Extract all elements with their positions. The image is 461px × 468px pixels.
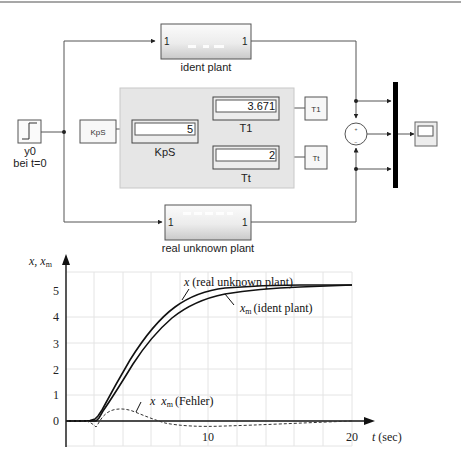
stage: y0 bei t=0 1 1 ident plant 1 1 real unkn… [0, 0, 461, 468]
mux-block[interactable] [393, 82, 398, 188]
sum-minus-sign: − [355, 139, 358, 145]
kps-display-block[interactable]: 5 [132, 120, 198, 143]
kps-display-value: 5 [187, 123, 193, 135]
kps-display-label: KpS [155, 146, 176, 158]
y-axis-label: x,xm [28, 254, 53, 269]
scope-screen-icon [418, 126, 433, 136]
ident-plant-block[interactable]: 1 1 [161, 24, 251, 59]
step-label-1: y0 [24, 145, 36, 157]
curve-error [66, 409, 352, 427]
branch-dot [354, 167, 358, 171]
kps-constant-block[interactable]: KpS [80, 120, 116, 143]
x-tick-label: 20 [346, 430, 358, 444]
tt-display-block[interactable]: 2 [213, 146, 279, 169]
t1-display-label: T1 [240, 122, 253, 134]
y-tick-label: 1 [53, 388, 59, 402]
t1-display-value: 3.671 [247, 100, 275, 112]
real-plant-block[interactable]: 1 1 [165, 205, 251, 240]
y-tick-label: 0 [53, 414, 59, 428]
y-tick-label: 3 [53, 337, 59, 351]
tt-display-value: 2 [269, 149, 275, 161]
ident-out-port: 1 [242, 36, 248, 47]
y-tick-label: 2 [53, 363, 59, 377]
sum-block[interactable]: + − [345, 123, 367, 145]
tt-constant-block[interactable]: Tt [305, 146, 327, 169]
t1-constant-text: T1 [311, 105, 321, 114]
y-tick-label: 5 [53, 284, 59, 298]
plot: 5 4 3 2 1 0 10 20 x,xm t(sec) x(real unk… [28, 254, 402, 447]
sum-plus-sign: + [355, 126, 358, 132]
annotation-ident-plant: xm(ident plant) [239, 301, 313, 316]
kps-constant-text: KpS [90, 128, 105, 137]
x-axis-label: t(sec) [372, 430, 402, 444]
t1-display-block[interactable]: 3.671 [213, 97, 279, 120]
ident-plant-label: ident plant [181, 61, 232, 73]
step-block[interactable] [18, 120, 41, 143]
real-out-port: 1 [242, 217, 248, 228]
scope-block[interactable] [415, 122, 437, 146]
leader-ident [225, 294, 234, 305]
annotation-real-plant: x(real unknown plant) [183, 275, 293, 289]
y-tick-label: 4 [53, 310, 59, 324]
tt-constant-text: Tt [312, 154, 320, 163]
tt-display-label: Tt [241, 172, 251, 184]
x-axis-arrow-icon [364, 417, 375, 425]
real-in-port: 1 [168, 217, 174, 228]
step-label-2: bei t=0 [13, 157, 46, 169]
annotation-error: xxm(Fehler) [149, 394, 214, 409]
t1-constant-block[interactable]: T1 [305, 97, 327, 120]
y-axis-arrow-icon [62, 254, 70, 265]
plant-pattern-icon [188, 45, 224, 48]
branch-dot [354, 99, 358, 103]
branch-dot [62, 130, 66, 134]
x-tick-label: 10 [202, 430, 214, 444]
leader-error [136, 402, 141, 412]
real-plant-label: real unknown plant [162, 242, 254, 254]
ident-in-port: 1 [164, 36, 170, 47]
